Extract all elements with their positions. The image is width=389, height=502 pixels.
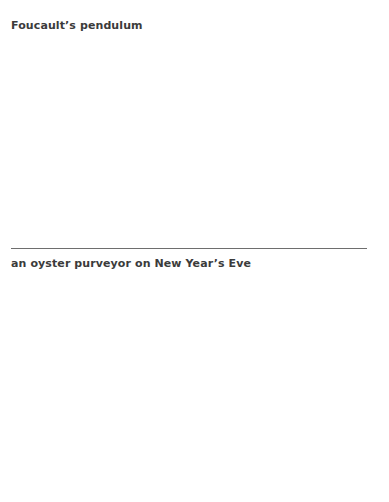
bottom-caption: an oyster purveyor on New Year’s Eve	[11, 257, 251, 270]
divider	[11, 248, 367, 249]
top-caption: Foucault’s pendulum	[11, 19, 143, 32]
